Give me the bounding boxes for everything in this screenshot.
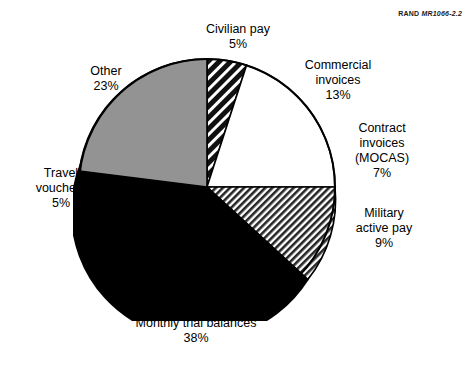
slice-label-military-active-pay-line1: Military	[334, 206, 434, 221]
slice-label-military-active-pay: Military active pay 9%	[334, 206, 434, 251]
slice-label-civilian-pay-value: 5%	[186, 37, 290, 52]
slice-label-other-value: 23%	[62, 79, 150, 94]
slice-label-other: Other 23%	[62, 64, 150, 94]
slice-label-other-line1: Other	[62, 64, 150, 79]
slice-label-monthly-trial-balances-value: 38%	[108, 331, 284, 346]
slice-label-commercial-invoices-line1: Commercial	[288, 58, 388, 73]
slice-label-contract-invoices: Contract invoices (MOCAS) 7%	[330, 121, 434, 181]
slice-label-commercial-invoices-value: 13%	[288, 88, 388, 103]
pie-chart-figure: RAND MR1066-2.2	[0, 0, 470, 365]
slice-label-commercial-invoices-line2: invoices	[288, 73, 388, 88]
slice-label-travel-vouchers-value: 5%	[18, 196, 104, 211]
slice-label-contract-invoices-line2: invoices	[330, 136, 434, 151]
slice-label-travel-vouchers-line2: vouchers	[18, 181, 104, 196]
slice-label-civilian-pay-line1: Civilian pay	[186, 22, 290, 37]
slice-label-civilian-pay: Civilian pay 5%	[186, 22, 290, 52]
slice-label-contract-invoices-line3: (MOCAS)	[330, 151, 434, 166]
slice-label-contract-invoices-value: 7%	[330, 166, 434, 181]
slice-label-monthly-trial-balances-line1: Monthly trial balances	[108, 316, 284, 331]
slice-label-commercial-invoices: Commercial invoices 13%	[288, 58, 388, 103]
slice-label-contract-invoices-line1: Contract	[330, 121, 434, 136]
source-tag-id: MR1066-2.2	[421, 10, 462, 17]
slice-label-travel-vouchers: Travel vouchers 5%	[18, 166, 104, 211]
slice-label-military-active-pay-value: 9%	[334, 236, 434, 251]
slice-label-military-active-pay-line2: active pay	[334, 221, 434, 236]
slice-label-travel-vouchers-line1: Travel	[18, 166, 104, 181]
source-tag-prefix: RAND	[398, 10, 419, 17]
slice-label-monthly-trial-balances: Monthly trial balances 38%	[108, 316, 284, 346]
source-tag: RAND MR1066-2.2	[398, 10, 462, 17]
